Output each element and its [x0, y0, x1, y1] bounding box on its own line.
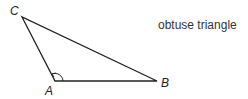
vertex-label-b: B	[161, 76, 169, 90]
vertex-label-a: A	[44, 84, 53, 98]
vertex-label-c: C	[10, 4, 19, 18]
diagram-caption: obtuse triangle	[158, 18, 237, 32]
triangle-shape	[22, 17, 157, 81]
triangle-diagram: C A B	[0, 0, 248, 99]
